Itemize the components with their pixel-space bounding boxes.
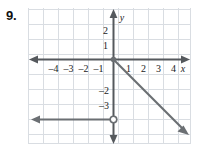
- y-axis: [110, 9, 118, 144]
- x-tick-label: 2: [141, 63, 146, 74]
- coordinate-graph: –4 –3 –2 –1 1 2 3 4 2 1 –2 –3 x y: [28, 8, 191, 144]
- y-tick-label: –3: [98, 100, 109, 111]
- open-endpoint-marker: [110, 116, 117, 123]
- problem-number: 9.: [6, 8, 16, 23]
- y-axis-label: y: [119, 12, 125, 23]
- x-tick-label: –4: [48, 63, 59, 74]
- x-tick-label: 3: [156, 63, 161, 74]
- y-tick-label: 2: [103, 25, 108, 36]
- x-axis-label: x: [180, 63, 186, 74]
- x-tick-labels: –4 –3 –2 –1 1 2 3 4: [48, 63, 177, 74]
- y-tick-label: –2: [98, 85, 109, 96]
- diagonal-ray: [111, 57, 189, 135]
- x-tick-label: 4: [171, 63, 176, 74]
- grid-lines: [28, 8, 191, 144]
- x-tick-label: 1: [126, 63, 131, 74]
- x-tick-label: –1: [93, 63, 104, 74]
- graph-svg: –4 –3 –2 –1 1 2 3 4 2 1 –2 –3 x y: [28, 8, 191, 144]
- closed-endpoint-marker: [111, 57, 117, 63]
- y-tick-label: 1: [103, 40, 108, 51]
- x-tick-label: –2: [78, 63, 89, 74]
- x-tick-label: –3: [63, 63, 74, 74]
- figure-container: 9.: [0, 0, 198, 151]
